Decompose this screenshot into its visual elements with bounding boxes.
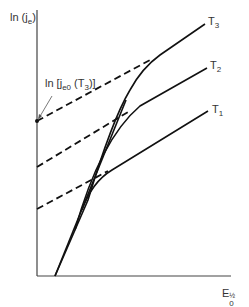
dashed-extrapolation-t1 [37,171,108,209]
series-label-t3: T3 [208,16,219,27]
y-axis-label: ln (je) [10,12,36,23]
t1-main: T [212,103,219,115]
annotation-pre: ln [j [45,77,62,89]
dashed-extrapolation-t2 [37,112,128,167]
y-axis-label-main: ln (j [10,11,28,23]
t3-sub: 3 [215,21,219,30]
diagram-canvas [0,0,249,307]
x-axis-label: E½0 [222,288,235,299]
y-axis-label-close: ) [32,11,36,23]
x-axis-label-sup: ½ [229,292,235,299]
t1-sub: 1 [219,109,223,118]
annotation-sub2: 3 [84,83,88,92]
t3-main: T [208,15,215,27]
annotation-sub: e0 [62,83,71,92]
series-label-t1: T1 [212,104,223,115]
t2-sub: 2 [217,65,221,74]
x-axis-label-main: E [222,287,229,299]
curve-t2 [75,68,207,230]
annotation-close: )] [89,77,96,89]
y-axis-label-sub: e [28,17,32,26]
x-axis-label-sub: 0 [229,300,233,307]
annotation-mid: (T [71,77,84,89]
series-label-t2: T2 [210,60,221,71]
annotation-label: ln [je0 (T3)] [45,78,96,89]
t2-main: T [210,59,217,71]
curve-t3 [55,24,205,276]
